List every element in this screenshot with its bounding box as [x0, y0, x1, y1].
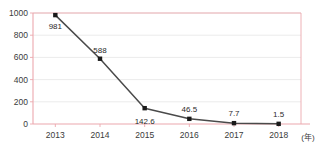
- x-axis-unit-label: (年): [301, 132, 315, 142]
- data-point-label: 1.5: [273, 110, 285, 119]
- x-tick-label: 2018: [269, 130, 288, 140]
- y-tick-label: 0: [23, 119, 28, 129]
- y-tick-label: 200: [14, 97, 28, 107]
- series-marker: [142, 106, 146, 110]
- x-tick-label: 2014: [91, 130, 110, 140]
- x-axis-ticks-group: 201320142015201620172018: [46, 124, 289, 140]
- series-marker: [187, 117, 191, 121]
- line-chart: 02004006008001000 2013201420152016201720…: [0, 0, 318, 147]
- data-point-label: 142.6: [135, 117, 156, 126]
- series-marker: [232, 121, 236, 125]
- series-marker: [98, 57, 102, 61]
- y-axis-ticks-group: 02004006008001000: [9, 8, 33, 129]
- y-tick-label: 1000: [9, 8, 28, 18]
- x-tick-label: 2015: [135, 130, 154, 140]
- chart-canvas: 02004006008001000 2013201420152016201720…: [0, 0, 318, 147]
- y-tick-label: 600: [14, 52, 28, 62]
- y-tick-label: 800: [14, 30, 28, 40]
- plot-area-background: [33, 13, 301, 124]
- x-tick-label: 2016: [180, 130, 199, 140]
- y-tick-label: 400: [14, 75, 28, 85]
- series-marker: [276, 122, 280, 126]
- data-point-label: 981: [49, 22, 63, 31]
- x-tick-label: 2013: [46, 130, 65, 140]
- series-marker: [53, 13, 57, 17]
- data-point-label: 588: [93, 46, 107, 55]
- data-point-label: 46.5: [182, 105, 198, 114]
- x-tick-label: 2017: [225, 130, 244, 140]
- data-point-label: 7.7: [228, 109, 240, 118]
